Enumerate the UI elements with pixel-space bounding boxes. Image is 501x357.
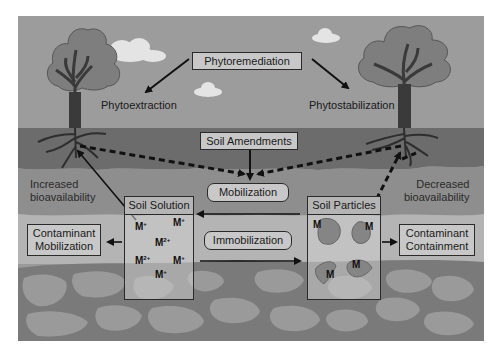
metal-label: M (365, 221, 373, 232)
phytostabilization-label: Phytostabilization (309, 99, 395, 112)
outcome-right-line1: Contaminant (400, 227, 474, 240)
decreased-line2: bioavailability (404, 191, 469, 204)
metal-ion: M+ (155, 269, 167, 280)
phytoremediation-title: Phytoremediation (192, 52, 302, 70)
metal-ion: M2+ (155, 237, 170, 248)
soil-solution-panel: Soil Solution M+ M+ M2+ M2+ M+ M+ (124, 196, 194, 300)
phytoremediation-diagram: Phytoremediation Phytoextraction Phytost… (18, 16, 484, 341)
immobilization-pill: Immobilization (204, 231, 292, 250)
metal-label: M (313, 219, 321, 230)
outcome-left-line2: Mobilization (28, 240, 100, 253)
soil-amendments-box: Soil Amendments (200, 132, 298, 150)
mobilization-pill: Mobilization (207, 183, 289, 202)
metal-label: M (352, 259, 360, 270)
metal-ion: M+ (173, 255, 185, 266)
soil-particles-header: Soil Particles (308, 197, 380, 215)
metal-ion: M+ (135, 221, 147, 232)
increased-line2: bioavailability (30, 191, 95, 204)
metal-label: M (326, 269, 334, 280)
decreased-bioavailability-label: Decreased bioavailability (404, 178, 469, 203)
outcome-right-line2: Containment (400, 240, 474, 253)
contaminant-mobilization-box: Contaminant Mobilization (27, 224, 101, 256)
soil-particles-panel: Soil Particles M M M M (307, 196, 381, 300)
phytoextraction-label: Phytoextraction (101, 99, 177, 112)
soil-solution-header: Soil Solution (125, 197, 193, 215)
metal-ion: M2+ (135, 255, 150, 266)
metal-ion: M+ (173, 217, 185, 228)
increased-bioavailability-label: Increased bioavailability (30, 178, 95, 203)
decreased-line1: Decreased (404, 178, 469, 191)
contaminant-containment-box: Contaminant Containment (399, 224, 475, 256)
outcome-left-line1: Contaminant (28, 227, 100, 240)
increased-line1: Increased (30, 178, 95, 191)
